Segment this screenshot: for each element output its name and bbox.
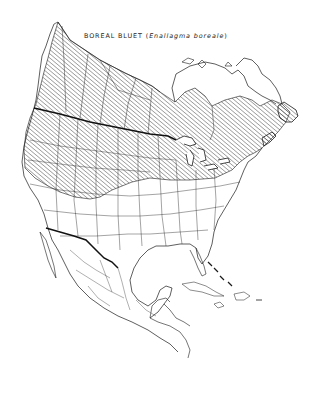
- baja-california: [40, 232, 56, 278]
- yucatan: [150, 298, 170, 318]
- title-common-name: BOREAL BLUET: [84, 32, 143, 40]
- north-america-map: [0, 0, 320, 393]
- central-america: [150, 304, 190, 358]
- bahamas: [208, 262, 232, 286]
- range-map: BOREAL BLUET (Enallagma boreale): [0, 0, 320, 393]
- range-hatched-area: [24, 22, 290, 199]
- cuba: [182, 282, 224, 296]
- mexico-state-boundaries: [70, 250, 156, 316]
- title-scientific-name: Enallagma boreale: [149, 32, 224, 40]
- jamaica: [214, 302, 224, 308]
- range-newfoundland: [278, 102, 298, 122]
- hispaniola: [234, 292, 250, 300]
- map-title: BOREAL BLUET (Enallagma boreale): [84, 32, 228, 40]
